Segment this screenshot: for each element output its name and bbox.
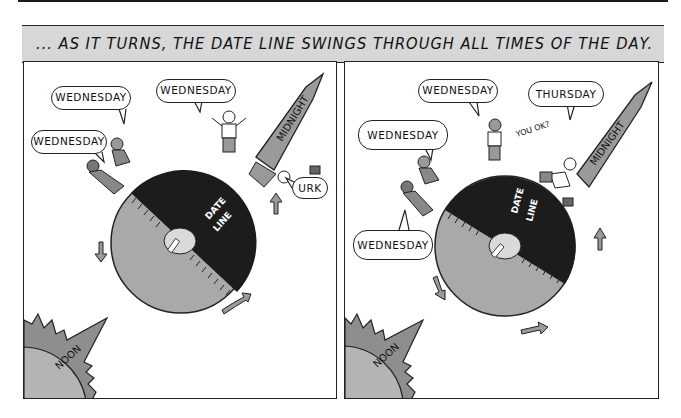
panel-left-illustration: DATE LINE MIDNIGHT [24,62,337,399]
speech-bubble: WEDNESDAY [358,120,448,150]
globe: DATE LINE [111,170,257,313]
comic-panel-right: DATE LINE YOU OK? MIDNIGHT [344,61,659,399]
speech-bubble: THURSDAY [528,81,604,107]
speech-bubble: WEDNESDAY [418,79,498,103]
comic-panel-left: DATE LINE MIDNIGHT [23,61,337,399]
midnight-banner: MIDNIGHT [256,74,323,170]
speech-bubble: WEDNESDAY [51,86,131,110]
speech-bubble: WEDNESDAY [31,130,107,154]
caption-text: ... AS IT TURNS, THE DATE LINE SWINGS TH… [36,35,653,53]
aside-text: YOU OK? [514,120,551,140]
globe: DATE LINE [435,176,575,316]
noon-sun: NOON [24,314,107,399]
caption-box: ... AS IT TURNS, THE DATE LINE SWINGS TH… [22,25,664,63]
speech-bubble: WEDNESDAY [156,79,236,103]
speech-bubble: URK [292,177,328,199]
svg-text:MIDNIGHT: MIDNIGHT [588,119,627,168]
speech-bubble: WEDNESDAY [353,230,433,260]
top-rule [18,0,668,2]
noon-sun: NOON [345,314,423,399]
